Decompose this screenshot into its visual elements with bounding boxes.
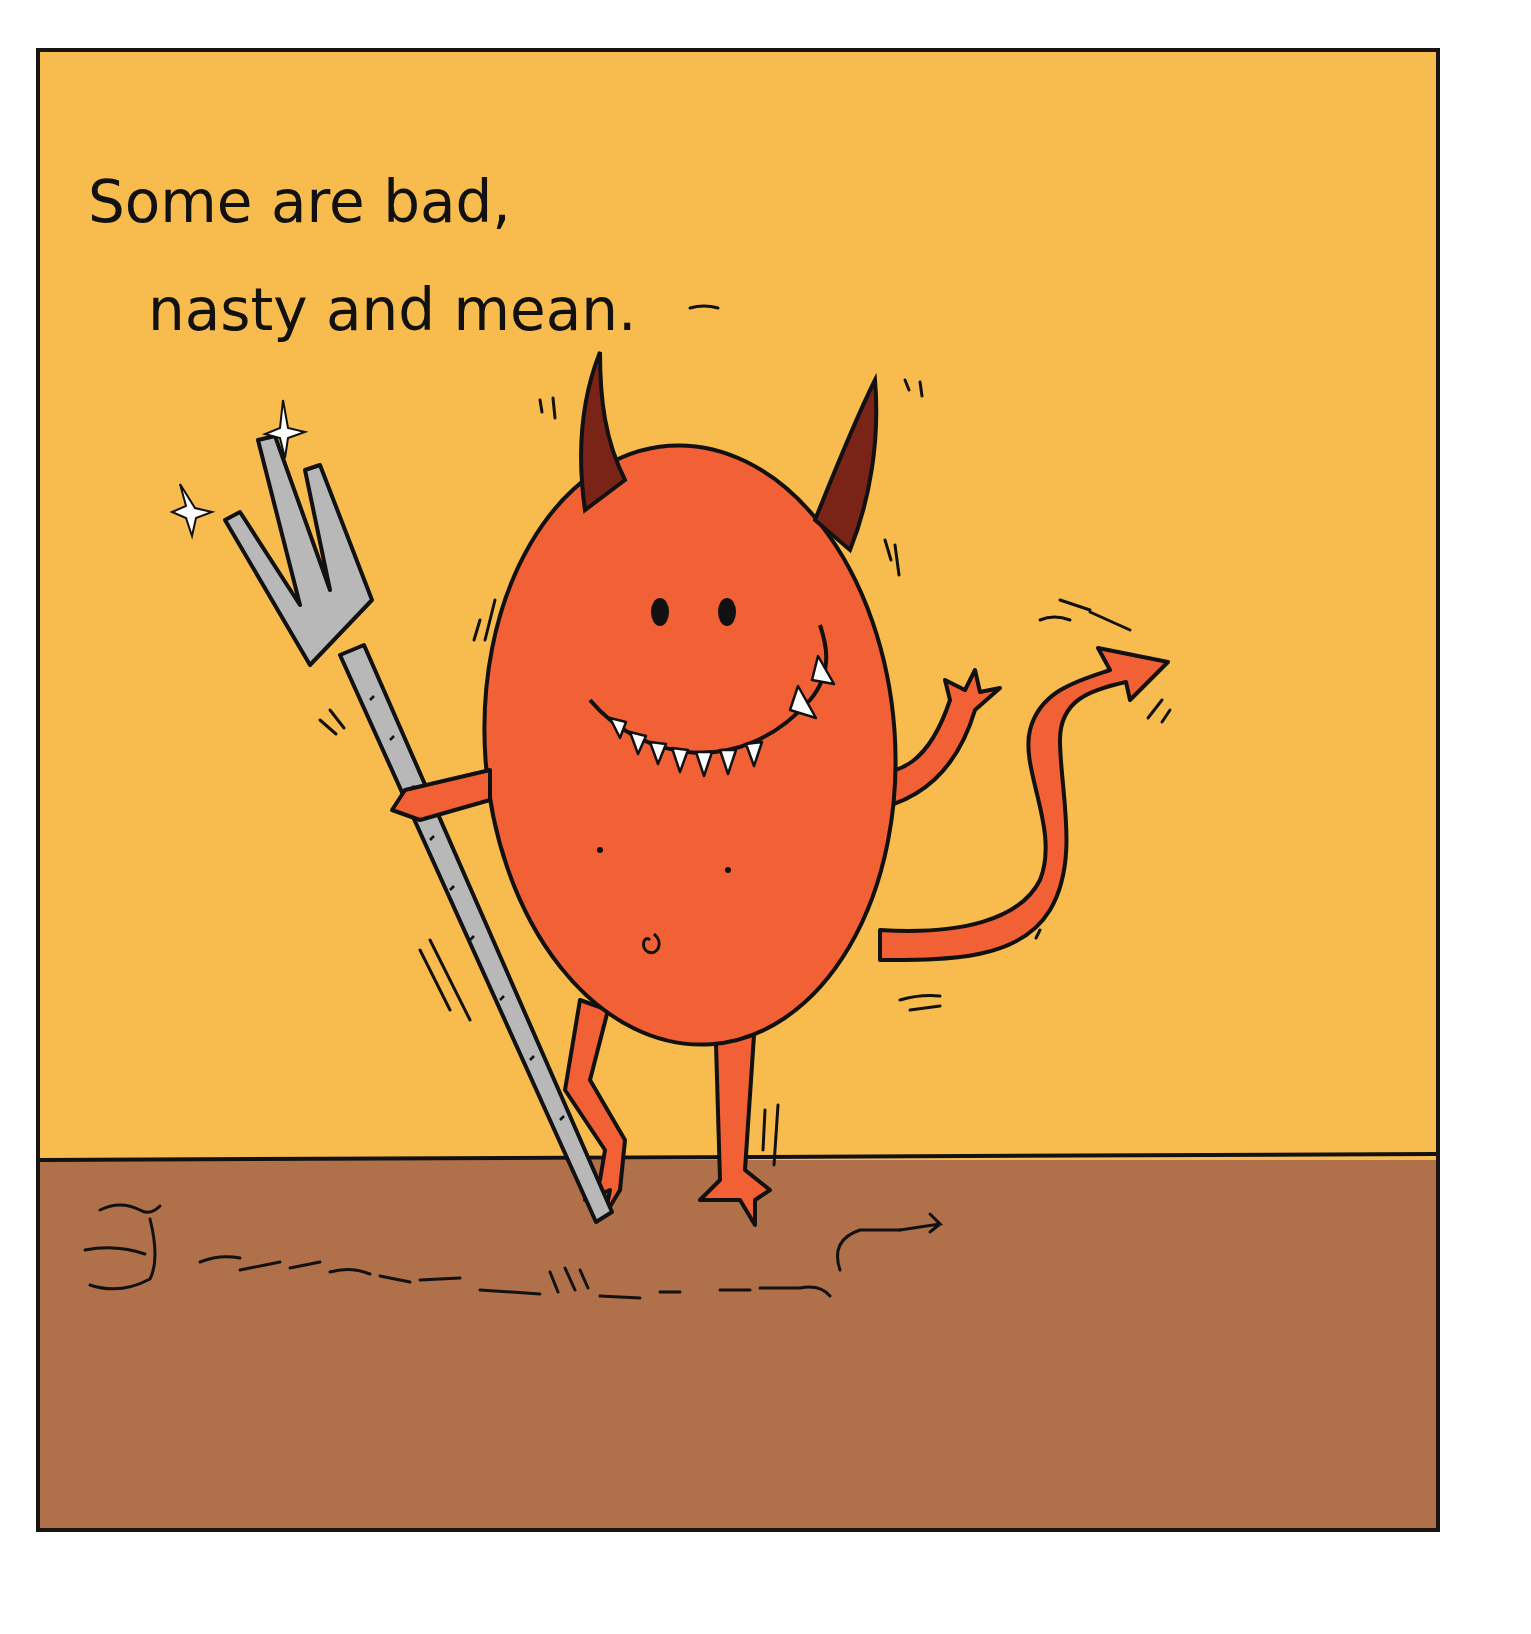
eye-left-icon	[651, 598, 669, 626]
footprint-trail	[85, 1205, 940, 1298]
illustration-frame: Some are bad, nasty and mean.	[36, 48, 1440, 1532]
horn-left-icon	[581, 352, 625, 510]
eye-right-icon	[718, 598, 736, 626]
sparkle-icon	[172, 484, 212, 536]
devil-tail	[880, 648, 1168, 960]
horn-right-icon	[815, 380, 876, 550]
devil-illustration	[40, 52, 1436, 1528]
